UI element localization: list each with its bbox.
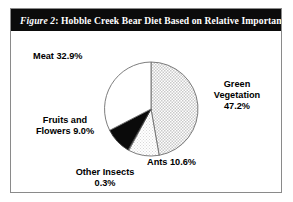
- figure-number: Figure 2: [20, 15, 55, 26]
- figure-caption: Figure 2: Hobble Creek Bear Diet Based o…: [11, 15, 281, 26]
- pie-label-green-vegetation: Green Vegetation 47.2%: [199, 79, 275, 113]
- figure-caption-bar: Figure 2: Hobble Creek Bear Diet Based o…: [11, 9, 281, 31]
- pie-label-meat: Meat 32.9%: [33, 51, 123, 62]
- pie-slice-green-vegetation: [151, 62, 198, 155]
- figure-container: Figure 2: Hobble Creek Bear Diet Based o…: [0, 0, 293, 202]
- figure-frame: Figure 2: Hobble Creek Bear Diet Based o…: [10, 8, 282, 193]
- pie-chart-plot-area: Meat 32.9% Green Vegetation 47.2% Fruits…: [11, 31, 281, 193]
- pie-label-other-insects: Other Insects 0.3%: [53, 167, 157, 189]
- pie-label-fruits-and-flowers: Fruits and Flowers 9.0%: [19, 115, 111, 137]
- pie-label-ants: Ants 10.6%: [147, 157, 237, 168]
- figure-caption-title: Hobble Creek Bear Diet Based on Relative…: [61, 15, 281, 26]
